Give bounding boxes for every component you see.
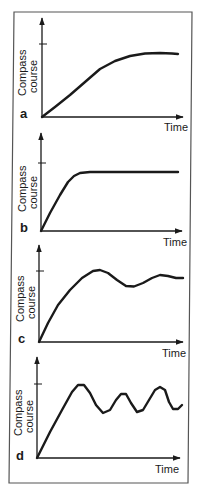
panel-letter: c — [18, 331, 25, 346]
chart-panel-b: Compass course Time b — [16, 133, 187, 248]
chart-panel-d: Compass course Time d — [12, 357, 182, 475]
x-axis-label: Time — [155, 463, 179, 475]
compass-course-curve — [42, 53, 178, 117]
y-axis-label-line2: course — [27, 60, 39, 93]
y-axis-label: Compass course — [12, 386, 35, 436]
y-axis-label: Compass course — [16, 162, 39, 212]
panel-letter: a — [20, 106, 28, 121]
panel-letter: d — [16, 448, 24, 463]
x-axis-label: Time — [162, 347, 186, 359]
figure: Compass course Time a Compass course Tim… — [0, 0, 198, 491]
x-axis-label: Time — [163, 236, 187, 248]
panel-letter: b — [20, 220, 28, 235]
compass-course-curve — [39, 270, 183, 342]
y-axis-label-line2: course — [23, 400, 35, 433]
chart-panel-c: Compass course Time c — [14, 245, 186, 359]
y-axis-label-line2: course — [27, 176, 39, 209]
y-axis-label: Compass course — [14, 272, 37, 322]
y-axis-label-line2: course — [25, 286, 37, 319]
chart-panel-a: Compass course Time a — [16, 18, 188, 133]
compass-course-curve — [37, 385, 182, 458]
compass-course-curve — [41, 172, 178, 231]
x-axis-label: Time — [164, 121, 188, 133]
y-axis-label: Compass course — [16, 46, 39, 96]
